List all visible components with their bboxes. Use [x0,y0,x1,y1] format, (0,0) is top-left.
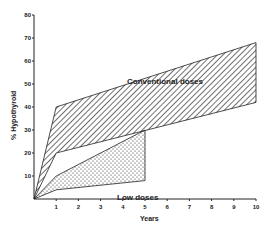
x-tick-label: 6 [166,204,170,210]
x-tick-label: 9 [232,204,236,210]
data-bands [34,43,256,199]
y-tick-label: 40 [24,104,31,110]
x-tick-label: 3 [99,204,103,210]
y-tick-label: 60 [24,58,31,64]
y-tick-label: 10 [24,173,31,179]
x-tick-label: 5 [143,204,147,210]
x-tick-label: 10 [253,204,260,210]
x-tick-label: 1 [55,204,59,210]
x-tick-label: 4 [121,204,125,210]
x-tick-label: 8 [210,204,214,210]
low-doses-label: Low doses [117,193,159,202]
y-tick-label: 30 [24,127,31,133]
y-axis-label: % Hypothyroid [10,91,18,140]
y-tick-label: 80 [24,12,31,18]
y-tick-label: 20 [24,150,31,156]
y-tick-label: 70 [24,35,31,41]
x-tick-label: 7 [188,204,192,210]
y-tick-label: 50 [24,81,31,87]
x-tick-label: 2 [77,204,81,210]
chart: 102030405060708012345678910 Conventional… [0,0,274,230]
conventional-doses-label: Conventional doses [127,77,204,86]
x-axis-label: Years [140,215,159,222]
